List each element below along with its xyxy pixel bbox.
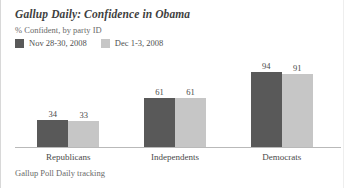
bar-wrap-republicans-series-1: 34 [37,120,68,147]
plot-area: 34 33 Republicans 61 [15,56,335,148]
bar-value-independents-series-2: 61 [175,87,206,97]
legend-item-series-1: Nov 28-30, 2008 [15,38,87,48]
category-label-republicans: Republicans [15,152,122,162]
legend-label-series-1: Nov 28-30, 2008 [29,38,87,48]
chart-legend: Nov 28-30, 2008 Dec 1-3, 2008 [15,38,163,48]
bar-value-democrats-series-1: 94 [251,61,282,71]
bar-group-republicans: 34 33 Republicans [15,56,122,147]
bar-wrap-independents-series-2: 61 [175,98,206,147]
bar-wrap-democrats-series-1: 94 [251,72,282,147]
bar-republicans-series-2 [68,121,99,147]
category-label-democrats: Democrats [228,152,335,162]
bar-groups: 34 33 Republicans 61 [15,56,335,147]
axis-baseline [15,147,341,148]
legend-swatch-icon-series-2 [101,39,110,48]
bar-pair: 61 61 [144,98,206,147]
bar-pair: 34 33 [37,120,99,147]
bar-value-republicans-series-2: 33 [68,110,99,120]
chart-subtitle: % Confident, by party ID [15,25,102,35]
bar-value-independents-series-1: 61 [144,87,175,97]
bar-democrats-series-1 [251,72,282,147]
chart-container: Gallup Daily: Confidence in Obama % Conf… [0,0,344,188]
bar-independents-series-2 [175,98,206,147]
bar-pair: 94 91 [251,72,313,147]
legend-label-series-2: Dec 1-3, 2008 [115,38,163,48]
bar-republicans-series-1 [37,120,68,147]
bar-value-republicans-series-1: 34 [37,109,68,119]
bar-group-democrats: 94 91 Democrats [228,56,335,147]
chart-source-note: Gallup Poll Daily tracking [15,168,105,178]
bar-group-independents: 61 61 Independents [122,56,229,147]
category-label-independents: Independents [122,152,229,162]
bar-independents-series-1 [144,98,175,147]
bar-wrap-independents-series-1: 61 [144,98,175,147]
legend-swatch-icon-series-1 [15,39,24,48]
bar-value-democrats-series-2: 91 [282,63,313,73]
bar-wrap-republicans-series-2: 33 [68,121,99,147]
chart-title: Gallup Daily: Confidence in Obama [15,8,190,20]
legend-item-series-2: Dec 1-3, 2008 [101,38,163,48]
bar-democrats-series-2 [282,74,313,147]
bar-wrap-democrats-series-2: 91 [282,74,313,147]
